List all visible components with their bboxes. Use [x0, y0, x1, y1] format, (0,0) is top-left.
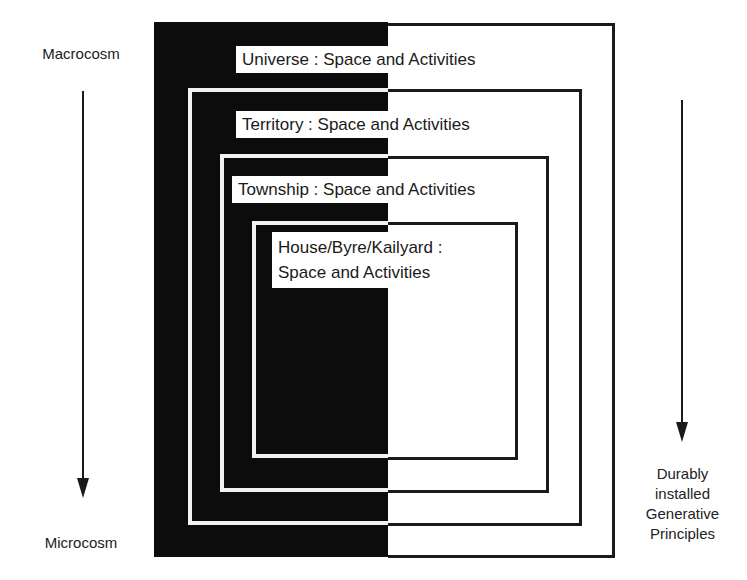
microcosm-label: Microcosm [26, 533, 136, 553]
right-arrow-shaft [681, 100, 683, 425]
house-label-line-2: Space and Activities [278, 260, 442, 285]
right-label-line-3: Generative [630, 504, 735, 524]
down-arrow-icon [676, 422, 688, 442]
territory-inner-left [220, 154, 224, 491]
right-label-line-1: Durably [630, 464, 735, 484]
right-label-line-4: Principles [630, 524, 735, 544]
down-arrow-icon [77, 478, 89, 498]
township-inner-bottom [252, 454, 388, 458]
territory-inner-top [220, 154, 388, 158]
territory-label: Territory : Space and Activities [236, 111, 476, 138]
universe-label: Universe : Space and Activities [236, 46, 481, 73]
left-arrow-shaft [82, 91, 84, 481]
township-label: Township : Space and Activities [232, 176, 481, 203]
universe-inner-top [188, 88, 388, 92]
house-label: House/Byre/Kailyard : Space and Activiti… [272, 232, 448, 288]
house-label-line-1: House/Byre/Kailyard : [278, 235, 442, 260]
universe-inner-left [188, 88, 192, 524]
township-inner-left [252, 221, 256, 457]
township-inner-top [252, 221, 388, 225]
macrocosm-label: Macrocosm [26, 44, 136, 64]
generative-principles-label: Durably installed Generative Principles [630, 464, 735, 544]
universe-inner-bottom [188, 521, 388, 525]
right-label-line-2: installed [630, 484, 735, 504]
territory-inner-bottom [220, 488, 388, 492]
